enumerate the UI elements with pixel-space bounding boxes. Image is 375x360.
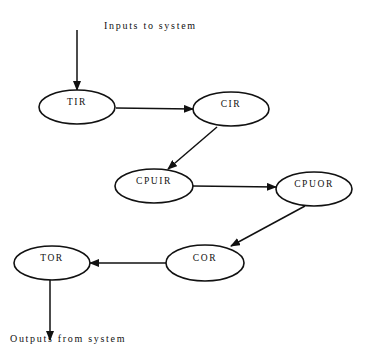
node-ellipse	[14, 246, 90, 280]
node-ellipse	[276, 172, 352, 206]
node-cpuor: CPUOR	[276, 172, 352, 206]
node-cor: COR	[166, 245, 244, 281]
edge-tir-to-cir	[116, 108, 193, 109]
node-label: TIR	[67, 97, 87, 107]
edge-cir-to-cpuir	[168, 127, 217, 169]
node-label: TOR	[40, 253, 64, 263]
node-ellipse	[193, 92, 269, 126]
node-label: CPUIR	[136, 176, 172, 186]
flow-diagram: TIRCIRCPUIRCPUORCORTOR	[0, 0, 375, 360]
outputs-caption: Outputs from system	[10, 333, 126, 344]
node-tir: TIR	[39, 90, 115, 124]
edge-cpuor-to-cor	[231, 206, 305, 246]
edge-cpuir-to-cpuor	[193, 186, 276, 187]
node-ellipse	[166, 245, 244, 281]
node-ellipse	[39, 90, 115, 124]
node-cir: CIR	[193, 92, 269, 126]
node-label: CIR	[221, 99, 242, 109]
node-cpuir: CPUIR	[115, 169, 193, 203]
node-ellipse	[115, 169, 193, 203]
nodes-layer: TIRCIRCPUIRCPUORCORTOR	[14, 90, 352, 281]
node-label: CPUOR	[294, 179, 334, 189]
node-tor: TOR	[14, 246, 90, 280]
node-label: COR	[193, 253, 217, 263]
